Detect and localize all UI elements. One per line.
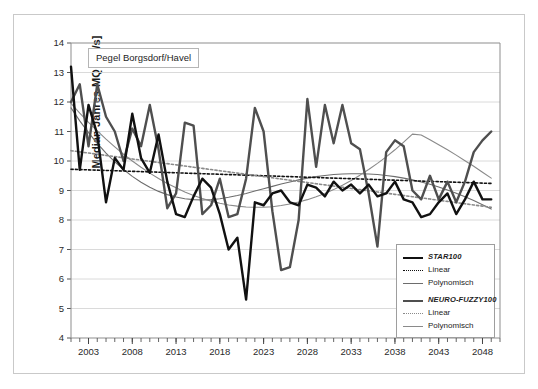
legend-label-star100-linear: Linear: [428, 265, 450, 274]
x-tick-label: 2018: [209, 346, 230, 357]
legend-label-star100: STAR100: [428, 252, 461, 261]
y-tick-label: 11: [54, 126, 64, 137]
y-tick-label: 8: [59, 214, 64, 225]
legend-item-star100-poly: Polynomisch: [403, 276, 489, 289]
legend-label-neurofuzzy100: NEURO-FUZZY100: [428, 295, 497, 304]
legend-item-star100: STAR100: [403, 250, 489, 263]
x-tick-label: 2028: [297, 346, 318, 357]
legend-label-neurofuzzy100-poly: Polynomisch: [428, 321, 473, 330]
chart-legend: STAR100 Linear Polynomisch NEURO-FUZZY10…: [396, 244, 495, 338]
legend-label-star100-poly: Polynomisch: [428, 278, 473, 287]
y-tick-label: 4: [59, 332, 64, 343]
legend-key-star100-poly-line-icon: [403, 278, 423, 288]
legend-item-neurofuzzy100: NEURO-FUZZY100: [403, 293, 489, 306]
chart-figure: Median Jahres-MQ [m³/s] 4567891011121314…: [0, 0, 538, 389]
x-tick-label: 2003: [78, 346, 99, 357]
x-tick-label: 2008: [122, 346, 143, 357]
y-tick-label: 13: [53, 67, 64, 78]
chart-title-text: Pegel Borgsdorf/Havel: [96, 52, 191, 63]
y-tick-label: 6: [59, 273, 64, 284]
legend-item-neurofuzzy100-poly: Polynomisch: [403, 319, 489, 332]
chart-title-box: Pegel Borgsdorf/Havel: [88, 48, 199, 68]
y-tick-label: 5: [59, 303, 64, 314]
y-tick-label: 9: [59, 185, 64, 196]
x-tick-label: 2033: [341, 346, 362, 357]
legend-key-neurofuzzy100-line-icon: [403, 295, 423, 305]
legend-key-star100-linear-line-icon: [403, 265, 423, 275]
y-tick-label: 12: [53, 96, 64, 107]
x-tick-label: 2048: [472, 346, 493, 357]
y-tick-label: 7: [59, 244, 64, 255]
legend-item-neurofuzzy100-linear: Linear: [403, 306, 489, 319]
x-tick-label: 2038: [384, 346, 405, 357]
y-tick-label: 10: [53, 155, 64, 166]
y-tick-label: 14: [53, 37, 64, 48]
legend-label-neurofuzzy100-linear: Linear: [428, 308, 450, 317]
legend-key-star100-line-icon: [403, 252, 423, 262]
x-tick-label: 2013: [165, 346, 186, 357]
x-tick-label: 2043: [428, 346, 449, 357]
x-tick-label: 2023: [253, 346, 274, 357]
legend-key-neurofuzzy100-linear-line-icon: [403, 308, 423, 318]
legend-key-neurofuzzy100-poly-line-icon: [403, 321, 423, 331]
legend-item-star100-linear: Linear: [403, 263, 489, 276]
